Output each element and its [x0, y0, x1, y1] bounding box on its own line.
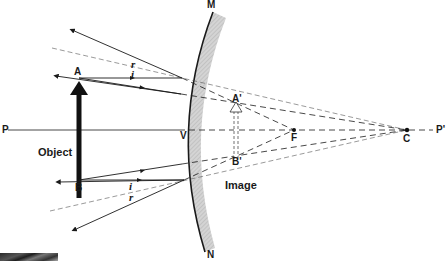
object-arrow-head [70, 81, 88, 95]
convex-mirror-ray-diagram [0, 0, 446, 261]
label-object: Object [38, 147, 72, 158]
ray-b-incident-2 [79, 164, 182, 180]
normal-bottom [50, 130, 407, 211]
label-n: N [207, 250, 214, 260]
photo-fragment [0, 253, 58, 261]
label-c: C [403, 134, 410, 144]
label-reflection-angle-bottom: r [129, 192, 133, 203]
normal-top [52, 48, 407, 130]
label-a: A [74, 67, 81, 77]
label-b: B [75, 183, 82, 193]
label-v: V [180, 131, 187, 141]
image-arrow-shaft [234, 110, 238, 158]
mirror-silvering [188, 12, 226, 252]
label-a-prime: A' [232, 94, 242, 104]
label-p-prime: P' [436, 125, 445, 135]
center-of-curvature-point [405, 128, 409, 132]
label-b-prime: B' [232, 157, 242, 167]
label-f: F [291, 133, 297, 143]
label-m: M [207, 0, 215, 10]
ray-a-virtual-2 [181, 94, 407, 130]
label-p: P [2, 125, 9, 135]
ray-a-reflected-1 [72, 30, 182, 78]
label-incidence-angle-top: i [131, 69, 134, 80]
label-image: Image [225, 180, 257, 191]
